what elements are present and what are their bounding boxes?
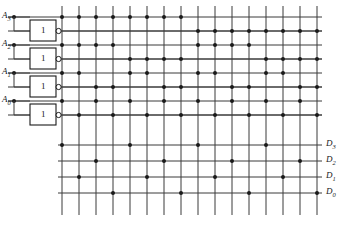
inverter-bubble-A3 [56, 28, 61, 33]
junction-A1-comp-c7 [179, 85, 183, 89]
junction-A0-comp-c9 [213, 113, 217, 117]
inverter-bubble-A0 [56, 112, 61, 117]
output-label-D1: D1 [326, 171, 336, 182]
junction-A3-comp-c8 [196, 29, 200, 33]
junction-A0-true-c8 [196, 99, 200, 103]
junction-D3-c12 [264, 143, 268, 147]
junction-D3-c0 [60, 143, 64, 147]
output-label-sub: 1 [333, 175, 336, 182]
inverter-symbol-A0: 1 [41, 109, 46, 119]
junction-D3-c8 [196, 143, 200, 147]
junction-A0-comp-c11 [247, 113, 251, 117]
junction-A2-comp-c6 [162, 57, 166, 61]
junction-A1-comp-c3 [111, 85, 115, 89]
junction-A2-true-c10 [230, 43, 234, 47]
junction-A0-comp-c13 [281, 113, 285, 117]
junction-A3-true-c5 [145, 15, 149, 19]
junction-A0-true-c2 [94, 99, 98, 103]
junction-A1-true-c12 [264, 71, 268, 75]
junction-A2-true-c0 [60, 43, 64, 47]
junction-A2-comp-c13 [281, 57, 285, 61]
junction-A3-comp-c9 [213, 29, 217, 33]
junction-D0-c3 [111, 191, 115, 195]
junction-D0-c7 [179, 191, 183, 195]
input-label-A1: A1 [2, 67, 11, 78]
junction-D2-c6 [162, 159, 166, 163]
junction-A3-comp-c15 [315, 29, 319, 33]
junction-A3-comp-c12 [264, 29, 268, 33]
junction-A2-comp-c14 [298, 57, 302, 61]
junction-A1-true-c8 [196, 71, 200, 75]
junction-D1-c9 [213, 175, 217, 179]
junction-A1-true-c9 [213, 71, 217, 75]
junction-A0-true-c4 [128, 99, 132, 103]
input-label-sub: 0 [8, 99, 11, 106]
junction-A0-true-c0 [60, 99, 64, 103]
junction-A3-true-c1 [77, 15, 81, 19]
inverter-symbol-A1: 1 [41, 81, 46, 91]
inverter-symbol-A3: 1 [41, 25, 46, 35]
junction-A0-comp-c5 [145, 113, 149, 117]
junction-D1-c13 [281, 175, 285, 179]
output-label-D0: D0 [326, 187, 336, 198]
junction-D1-c1 [77, 175, 81, 179]
input-label-sub: 2 [8, 43, 11, 50]
junction-D0-c15 [315, 191, 319, 195]
output-label-D3: D3 [326, 139, 336, 150]
inverter-symbol-A2: 1 [41, 53, 46, 63]
junction-A0-true-c6 [162, 99, 166, 103]
junction-A3-true-c7 [179, 15, 183, 19]
input-label-A3: A3 [2, 11, 11, 22]
output-label-sub: 3 [333, 143, 336, 150]
junction-D2-c14 [298, 159, 302, 163]
junction-A2-comp-c7 [179, 57, 183, 61]
junction-A1-comp-c2 [94, 85, 98, 89]
junction-A2-true-c9 [213, 43, 217, 47]
junction-D0-c11 [247, 191, 251, 195]
junction-A1-comp-c14 [298, 85, 302, 89]
junction-A2-true-c11 [247, 43, 251, 47]
junction-A3-comp-c10 [230, 29, 234, 33]
junction-A1-true-c1 [77, 71, 81, 75]
circuit-canvas [0, 0, 345, 229]
junction-A0-true-c14 [298, 99, 302, 103]
junction-A3-comp-c11 [247, 29, 251, 33]
junction-A0-comp-c7 [179, 113, 183, 117]
junction-A1-true-c4 [128, 71, 132, 75]
junction-A3-true-c6 [162, 15, 166, 19]
output-label-sub: 0 [333, 191, 336, 198]
junction-D3-c4 [128, 143, 132, 147]
junction-A3-comp-c13 [281, 29, 285, 33]
circuit-diagram: 1A31A21A11A0D3D2D1D0 [0, 0, 345, 229]
junction-A1-comp-c11 [247, 85, 251, 89]
input-label-A0: A0 [2, 95, 11, 106]
junction-A2-comp-c4 [128, 57, 132, 61]
junction-A1-true-c0 [60, 71, 64, 75]
junction-A2-true-c8 [196, 43, 200, 47]
junction-A0-true-c12 [264, 99, 268, 103]
output-label-sub: 2 [333, 159, 336, 166]
inverter-bubble-A1 [56, 84, 61, 89]
junction-A0-comp-c1 [77, 113, 81, 117]
junction-A0-comp-c3 [111, 113, 115, 117]
junction-A2-true-c1 [77, 43, 81, 47]
junction-D1-c5 [145, 175, 149, 179]
junction-A1-comp-c6 [162, 85, 166, 89]
junction-A3-true-c2 [94, 15, 98, 19]
junction-A1-comp-c10 [230, 85, 234, 89]
junction-A1-comp-c15 [315, 85, 319, 89]
junction-D2-c2 [94, 159, 98, 163]
junction-A3-true-c3 [111, 15, 115, 19]
junction-A2-comp-c5 [145, 57, 149, 61]
junction-D2-c10 [230, 159, 234, 163]
junction-A3-true-c4 [128, 15, 132, 19]
junction-A0-comp-c15 [315, 113, 319, 117]
junction-A2-true-c2 [94, 43, 98, 47]
inverter-bubble-A2 [56, 56, 61, 61]
junction-A1-true-c13 [281, 71, 285, 75]
input-label-A2: A2 [2, 39, 11, 50]
input-label-sub: 3 [8, 15, 11, 22]
junction-A1-true-c5 [145, 71, 149, 75]
junction-A3-true-c0 [60, 15, 64, 19]
junction-A0-true-c10 [230, 99, 234, 103]
